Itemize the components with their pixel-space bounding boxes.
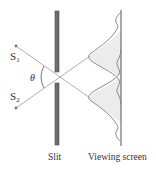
ray-from-s2 [16,56,90,108]
source-s1-dot [15,45,18,48]
source-s2-label: S2 [10,90,20,104]
slit-label: Slit [48,152,62,162]
angle-theta-label: θ [30,72,35,83]
source-s2-dot [15,107,18,110]
viewing-screen-label: Viewing screen [88,152,147,162]
diffraction-diagram: S1 S2 θ Slit Viewing screen [0,0,156,172]
angle-theta-arc [41,66,44,88]
ray-from-s1 [16,46,90,98]
slit-barrier-upper [55,11,59,72]
source-s1-label: S1 [10,50,20,64]
slit-barrier-lower [55,83,59,145]
